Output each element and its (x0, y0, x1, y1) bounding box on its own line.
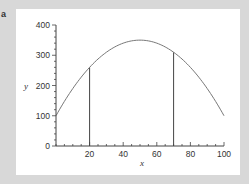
y-tick-label: 100 (36, 111, 50, 121)
chart: 0100200300400 20406080100 y x (0, 0, 249, 184)
x-tick-label: 100 (217, 149, 231, 159)
y-tick-label: 300 (36, 50, 50, 60)
y-axis-ticks: 0100200300400 (36, 20, 56, 151)
x-tick-label: 40 (118, 149, 128, 159)
y-axis-title: y (23, 81, 28, 91)
x-tick-label: 60 (152, 149, 162, 159)
x-axis-title: x (139, 158, 144, 168)
x-tick-label: 80 (186, 149, 196, 159)
y-tick-label: 0 (45, 141, 50, 151)
x-tick-label: 20 (85, 149, 95, 159)
x-axis-ticks: 20406080100 (56, 142, 231, 159)
vertical-lines (90, 52, 174, 146)
y-tick-label: 400 (36, 20, 50, 30)
parabola-curve (56, 40, 224, 116)
y-tick-label: 200 (36, 81, 50, 91)
